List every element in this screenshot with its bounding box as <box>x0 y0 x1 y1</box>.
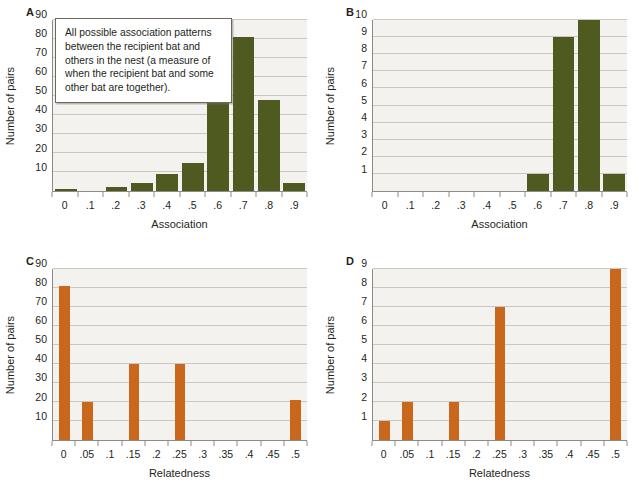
x-tick-mark <box>214 441 215 446</box>
x-tick-label: 0 <box>61 448 67 460</box>
x-tick-label: .6 <box>533 199 542 211</box>
bar <box>156 174 178 191</box>
x-tick-mark <box>511 441 512 446</box>
x-tick-mark <box>464 441 465 446</box>
x-tick-mark <box>307 441 308 446</box>
y-tick-label: 40 <box>35 352 47 364</box>
y-axis-label-a: Number of pairs <box>2 20 18 192</box>
x-tick-label: .9 <box>290 199 299 211</box>
x-tick-label: 0 <box>381 448 387 460</box>
x-tick-mark <box>627 441 628 446</box>
x-tick-label: .8 <box>264 199 273 211</box>
x-tick-mark <box>550 192 551 197</box>
bar <box>106 187 128 191</box>
x-tick-mark <box>448 192 449 197</box>
panel-label-d: D <box>346 255 354 267</box>
bar <box>449 402 460 440</box>
y-tick-label: 10 <box>355 8 367 20</box>
y-tick-label: 3 <box>361 371 367 383</box>
x-tick-label: .1 <box>426 448 435 460</box>
y-tick-label: 7 <box>361 295 367 307</box>
x-tick-label: .7 <box>239 199 248 211</box>
x-tick-mark <box>260 441 261 446</box>
x-tick-mark <box>499 192 500 197</box>
x-tick-mark <box>487 441 488 446</box>
x-tick-label: .5 <box>508 199 517 211</box>
x-tick-label: .8 <box>584 199 593 211</box>
bar <box>129 364 140 440</box>
x-tick-label: .3 <box>137 199 146 211</box>
x-tick-mark <box>237 441 238 446</box>
x-tick-label: .5 <box>188 199 197 211</box>
bar <box>610 269 621 440</box>
x-axis-label-b: Association <box>372 218 627 230</box>
x-tick-label: .2 <box>472 448 481 460</box>
x-tick-mark <box>77 192 78 197</box>
x-tick-label: .45 <box>265 448 280 460</box>
bar <box>578 20 600 191</box>
x-tick-mark <box>154 192 155 197</box>
x-tick-mark <box>256 192 257 197</box>
x-tick-mark <box>307 192 308 197</box>
y-axis-label-c: Number of pairs <box>2 269 18 441</box>
x-tick-mark <box>103 192 104 197</box>
y-tick-label: 7 <box>361 59 367 71</box>
x-tick-mark <box>576 192 577 197</box>
x-tick-label: .6 <box>213 199 222 211</box>
x-tick-label: .4 <box>482 199 491 211</box>
x-tick-mark <box>423 192 424 197</box>
y-tick-label: 4 <box>361 111 367 123</box>
y-axis-label-d: Number of pairs <box>322 269 338 441</box>
x-tick-mark <box>395 441 396 446</box>
x-tick-mark <box>441 441 442 446</box>
x-tick-mark <box>52 192 53 197</box>
x-tick-label: .45 <box>585 448 600 460</box>
x-tick-mark <box>580 441 581 446</box>
x-tick-mark <box>75 441 76 446</box>
y-tick-label: 20 <box>35 142 47 154</box>
y-tick-label: 70 <box>35 46 47 58</box>
y-tick-label: 30 <box>35 371 47 383</box>
x-tick-label: .9 <box>610 199 619 211</box>
plot-area-b: 12345678910 <box>372 20 627 192</box>
y-tick-label: 3 <box>361 128 367 140</box>
bars-d <box>373 269 627 440</box>
x-axis-label-d: Relatedness <box>372 467 627 479</box>
y-tick-label: 20 <box>35 391 47 403</box>
panel-d: D Number of pairs 123456789 0.05.1.15.2.… <box>320 249 639 498</box>
x-tick-label: .2 <box>431 199 440 211</box>
x-tick-label: .15 <box>126 448 141 460</box>
panel-label-b: B <box>346 6 354 18</box>
y-tick-label: 6 <box>361 314 367 326</box>
callout-a: All possible association patterns betwee… <box>55 18 232 103</box>
y-tick-label: 10 <box>35 161 47 173</box>
x-tick-label: .15 <box>446 448 461 460</box>
x-tick-mark <box>627 192 628 197</box>
panel-a: A Number of pairs 102030405060708090 0.1… <box>0 0 319 249</box>
y-tick-label: 50 <box>35 84 47 96</box>
x-tick-label: 0 <box>382 199 388 211</box>
y-tick-label: 9 <box>361 257 367 269</box>
x-tick-label: .3 <box>518 448 527 460</box>
bars-b <box>373 20 627 191</box>
y-tick-label: 60 <box>35 314 47 326</box>
plot-area-c: 102030405060708090 <box>52 269 307 441</box>
y-tick-label: 9 <box>361 25 367 37</box>
panel-label-a: A <box>26 6 34 18</box>
bar <box>495 307 506 440</box>
bar <box>59 286 70 440</box>
x-tick-mark <box>372 192 373 197</box>
plot-area-d: 123456789 <box>372 269 627 441</box>
figure-panel-grid: A Number of pairs 102030405060708090 0.1… <box>0 0 639 498</box>
bar <box>258 100 280 191</box>
x-tick-label: .3 <box>457 199 466 211</box>
y-tick-label: 5 <box>361 333 367 345</box>
bar <box>379 421 390 440</box>
x-tick-label: .1 <box>106 448 115 460</box>
x-tick-mark <box>418 441 419 446</box>
y-tick-label: 8 <box>361 276 367 288</box>
x-tick-label: .4 <box>245 448 254 460</box>
y-tick-label: 80 <box>35 276 47 288</box>
x-tick-label: .35 <box>219 448 234 460</box>
x-tick-mark <box>230 192 231 197</box>
